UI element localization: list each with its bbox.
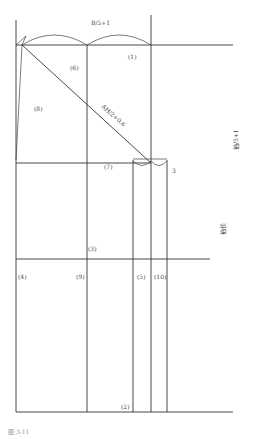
label-1: (1) <box>128 53 137 60</box>
label-8: (8) <box>34 105 43 112</box>
sleeve-length-label: 袖长 <box>219 223 227 235</box>
label-4: (4) <box>18 273 27 280</box>
label-5: (5) <box>137 273 146 280</box>
figure-caption: 图 3-11 <box>8 428 29 436</box>
pattern-diagram: B/5+1 (1) (6) (8) AH/2+0.6 (7) 3 (3) (4)… <box>0 0 253 439</box>
offset-label: 3 <box>172 167 176 174</box>
label-10: (10) <box>154 273 166 280</box>
left-slant-line <box>16 45 22 160</box>
diagonal-measure-label: AH/2+0.6 <box>100 102 128 128</box>
top-arc-right <box>87 35 151 45</box>
label-9: (9) <box>76 273 85 280</box>
top-measure-label: B/5+1 <box>91 19 110 26</box>
label-6: (6) <box>70 64 79 71</box>
right-vertical-measure-label: 袖/5+1 <box>232 129 240 150</box>
label-3: (3) <box>88 245 97 252</box>
strip-arc-right <box>151 161 167 166</box>
label-2: (2) <box>121 403 130 410</box>
top-arc-left <box>22 35 87 45</box>
label-7: (7) <box>104 163 113 170</box>
diagonal-line <box>22 45 151 163</box>
